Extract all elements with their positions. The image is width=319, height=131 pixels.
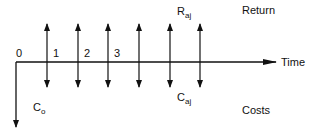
- time-axis-label: Time: [281, 56, 305, 68]
- cost-flow-label: Caj: [177, 91, 191, 106]
- return-flow-label: Raj: [177, 5, 191, 20]
- period-label-1: 1: [53, 47, 59, 59]
- cash-flow-diagram: 0 1 2 3 Raj Caj Co Return Time Costs: [0, 0, 319, 131]
- period-label-3: 3: [114, 47, 120, 59]
- flow-arrows: [47, 24, 200, 87]
- initial-cost-label: Co: [33, 101, 46, 116]
- return-legend-label: Return: [242, 4, 275, 16]
- period-label-0: 0: [16, 47, 22, 59]
- costs-legend-label: Costs: [242, 104, 271, 116]
- period-label-2: 2: [84, 47, 90, 59]
